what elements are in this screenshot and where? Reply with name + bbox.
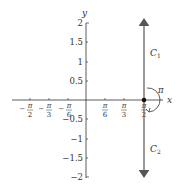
svg-text:π: π [102,102,108,110]
svg-text:π: π [121,102,127,110]
y-tick-label: 0.5 [69,76,83,86]
y-axis-label: y [81,8,88,18]
x-tick-label: − π 3 [38,102,52,119]
svg-text:π: π [27,102,33,110]
y-tick-label: −0.5 [62,114,83,124]
y-tick-label: 1.5 [69,37,83,47]
point-marker [142,98,147,103]
svg-text:−: − [38,105,44,113]
x-axis: x [12,95,172,105]
c1-label: C1 [150,48,161,59]
y-tick-label: −1.5 [62,153,83,163]
svg-text:π: π [46,102,52,110]
x-tick-label: π 3 [121,102,127,119]
figure-diagram: x y 2 1.5 1 0.5 −0.5 −1 −1.5 −2 − π [0,0,180,187]
svg-text:6: 6 [103,111,108,119]
x-tick-label: π 6 [102,102,108,119]
y-tick-label: −1 [70,134,83,144]
svg-text:6: 6 [67,111,72,119]
c2-label: C2 [150,144,161,155]
y-tick-label: −2 [70,172,83,182]
x-axis-label: x [167,95,172,105]
svg-text:−: − [19,105,25,113]
svg-text:2: 2 [28,111,32,119]
svg-text:3: 3 [122,111,126,119]
angle-label: π [157,85,164,95]
x-ticks: − π 2 − π 3 − π 6 π 6 π 3 [19,98,147,119]
x-tick-label: − π 2 [19,102,33,119]
y-tick-label: 2 [78,18,83,28]
y-tick-label: 1 [78,57,83,67]
svg-text:−: − [58,105,64,113]
svg-text:3: 3 [47,111,51,119]
svg-text:π: π [66,102,72,110]
angle-arc: π [146,85,164,112]
